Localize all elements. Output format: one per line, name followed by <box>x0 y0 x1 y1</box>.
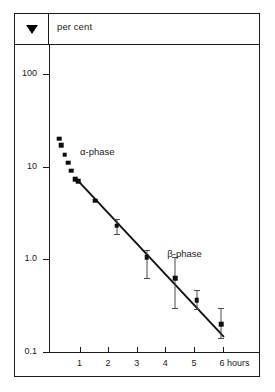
data-point <box>69 169 74 174</box>
x-axis-label: 1 <box>77 358 82 368</box>
x-axis-label: 4 <box>163 358 168 368</box>
y-axis-label: 10 <box>7 161 37 171</box>
error-bar-cap <box>114 234 120 235</box>
alpha-phase-label: α-phase <box>80 146 115 157</box>
beta-phase-fit-line <box>49 45 260 352</box>
data-point <box>144 255 149 260</box>
error-bar-cap <box>144 250 150 251</box>
error-bar-cap <box>194 309 200 310</box>
unit-label: per cent <box>57 21 92 32</box>
chart-header: per cent <box>15 14 259 45</box>
data-point <box>66 160 71 165</box>
y-axis-label: 100 <box>7 68 37 78</box>
data-point <box>76 179 81 184</box>
data-point <box>93 198 98 203</box>
data-point <box>59 143 64 148</box>
data-point <box>194 298 199 303</box>
y-axis-label: 0.1 <box>7 346 37 356</box>
x-axis-label: 3 <box>134 358 139 368</box>
data-point <box>62 152 67 157</box>
x-axis-label: 6 hours <box>220 358 250 368</box>
marker-cell <box>15 14 49 45</box>
down-triangle-icon <box>26 25 38 34</box>
data-point <box>173 276 178 281</box>
x-axis-line <box>49 352 260 353</box>
x-axis-label: 2 <box>106 358 111 368</box>
error-bar-cap <box>144 278 150 279</box>
data-point <box>57 136 62 141</box>
error-bar-cap <box>172 308 178 309</box>
x-axis-label: 5 <box>191 358 196 368</box>
error-bar-cap <box>114 219 120 220</box>
y-axis-label: 1.0 <box>7 253 37 263</box>
error-bar-cap <box>194 290 200 291</box>
chart-frame: per cent 100101.00.1 123456 hours α-phas… <box>14 13 260 377</box>
error-bar-cap <box>218 308 224 309</box>
plot-area: 100101.00.1 123456 hours α-phase β-phase <box>49 45 259 376</box>
error-bar-cap <box>218 338 224 339</box>
data-point <box>219 322 224 327</box>
figure-panel: per cent 100101.00.1 123456 hours α-phas… <box>0 0 275 392</box>
error-bar <box>175 257 176 307</box>
beta-phase-label: β-phase <box>167 248 202 259</box>
data-point <box>114 223 119 228</box>
